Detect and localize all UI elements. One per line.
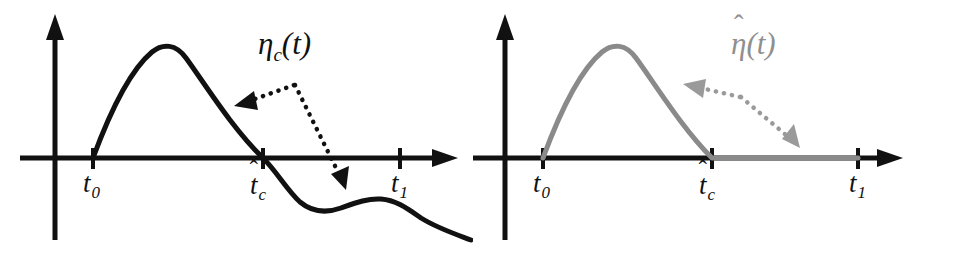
tick-label-tc-hat-left: ̂tc xyxy=(250,172,265,199)
leader-arrow-to-curve-left xyxy=(234,85,294,110)
tc-subscript: c xyxy=(259,185,267,204)
t1-subscript: 1 xyxy=(400,183,409,202)
eta-argument: (t) xyxy=(746,26,775,61)
curve-eta-hat xyxy=(543,46,858,158)
tick-label-t1-left: t1 xyxy=(391,170,407,197)
t0-base: t xyxy=(83,168,91,198)
eta-symbol: η xyxy=(731,26,746,61)
leader-arrow-to-flat-segment-right xyxy=(741,97,800,148)
eta-symbol: η xyxy=(258,26,273,61)
panel-right: ̂η(t) t0 ̂tc t1 xyxy=(473,0,953,253)
tc-hat-wrap: ̂t xyxy=(699,172,707,199)
panel-left: ηc(t) t0 ̂tc t1 xyxy=(0,0,473,253)
eta-hat-wrap: ̂η xyxy=(731,28,746,59)
tick-label-tc-hat-right: ̂tc xyxy=(699,172,714,199)
leader-arrow-to-negative-lobe-left xyxy=(295,85,349,190)
tick-label-t0-left: t0 xyxy=(83,170,99,197)
y-axis-left xyxy=(46,14,64,240)
figure-root: ηc(t) t0 ̂tc t1 xyxy=(0,0,953,253)
leader-arrow-to-curve-right xyxy=(683,79,740,98)
tc-subscript: c xyxy=(708,185,716,204)
t0-base: t xyxy=(533,168,541,198)
t1-base: t xyxy=(391,168,399,198)
tc-base: t xyxy=(250,170,258,200)
curve-eta-c xyxy=(93,46,471,240)
label-eta-c-of-t: ηc(t) xyxy=(258,28,311,59)
t0-subscript: 0 xyxy=(92,183,101,202)
tick-label-t1-right: t1 xyxy=(849,170,865,197)
t0-subscript: 0 xyxy=(542,183,551,202)
tc-hat-wrap: ̂t xyxy=(250,172,258,199)
label-eta-hat-of-t: ̂η(t) xyxy=(731,28,776,59)
tick-label-t0-right: t0 xyxy=(533,170,549,197)
tc-base: t xyxy=(699,170,707,200)
eta-subscript: c xyxy=(273,44,281,65)
x-axis-left xyxy=(20,149,458,167)
eta-argument: (t) xyxy=(282,26,311,61)
t1-subscript: 1 xyxy=(858,183,867,202)
t1-base: t xyxy=(849,168,857,198)
y-axis-right xyxy=(496,14,514,240)
